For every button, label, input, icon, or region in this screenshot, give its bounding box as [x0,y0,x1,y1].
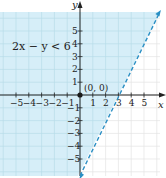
x-axis-label: x [158,99,164,110]
x-tick-label: −2 [48,98,61,108]
test-point-dot [77,92,82,97]
y-tick-label: 4 [72,39,78,49]
x-tick-label: −3 [36,98,50,108]
inequality-label: 2x − y < 6 [12,40,71,53]
y-axis-label: y [71,0,78,10]
x-tick-label: −5 [10,98,24,108]
x-tick-label: 1 [90,98,96,108]
y-tick-label: −2 [67,116,80,126]
x-tick-label: −4 [23,98,37,108]
y-tick-label: −4 [67,141,81,151]
inequality-graph: −5−4−3−2−112345−5−4−3−2−112345 (0, 0) 2x… [0,0,166,178]
test-point-label: (0, 0) [84,83,108,93]
y-tick-label: −1 [67,103,80,113]
x-tick-label: 4 [129,98,135,108]
y-tick-label: 2 [72,64,78,74]
x-tick-label: 5 [142,98,148,108]
y-tick-label: 5 [72,26,78,36]
y-tick-label: 3 [72,52,78,62]
y-tick-label: −3 [67,128,81,138]
y-tick-label: −5 [67,154,81,164]
x-tick-label: 2 [103,98,109,108]
y-tick-label: 1 [72,77,78,87]
